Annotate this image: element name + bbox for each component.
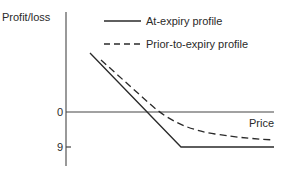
x-axis-label: Price — [249, 117, 274, 129]
tick-label-zero: 0 — [57, 106, 63, 118]
legend-prior-to-expiry-label: Prior-to-expiry profile — [146, 38, 248, 50]
y-axis-label: Profit/loss — [2, 11, 50, 23]
at-expiry-profile-line — [90, 53, 274, 147]
legend-at-expiry-label: At-expiry profile — [146, 15, 222, 27]
tick-label-nine: 9 — [57, 141, 63, 153]
payoff-diagram — [0, 0, 288, 174]
